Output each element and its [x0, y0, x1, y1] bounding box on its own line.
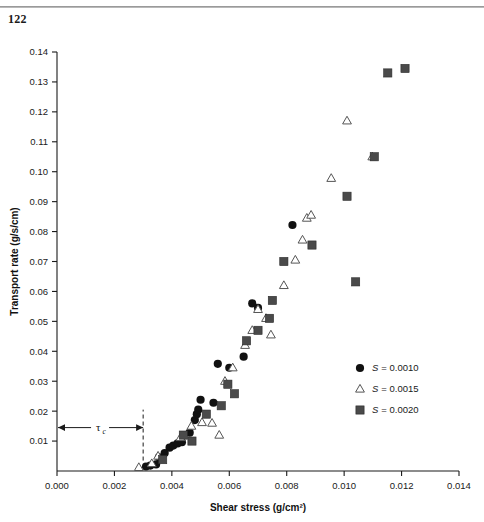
data-point-square — [254, 326, 262, 334]
y-tick-label: 0.13 — [30, 76, 49, 87]
data-point-triangle — [267, 330, 276, 338]
figure-page: 122 0.0000.0020.0040.0060.0080.0100.0120… — [0, 0, 484, 522]
tau-c-label: τ — [96, 421, 101, 433]
y-tick-label: 0.12 — [30, 106, 49, 117]
x-tick-label: 0.002 — [103, 480, 127, 491]
data-point-triangle — [327, 174, 336, 182]
x-tick-label: 0.014 — [447, 480, 471, 491]
data-point-square — [268, 296, 276, 304]
x-tick-label: 0.008 — [275, 480, 299, 491]
data-point-square — [230, 390, 238, 398]
data-point-square — [217, 402, 225, 410]
data-point-triangle — [198, 418, 207, 426]
data-point-circle — [288, 221, 296, 229]
data-point-triangle — [298, 235, 307, 243]
y-tick-label: 0.02 — [30, 406, 49, 417]
data-point-circle — [209, 399, 217, 407]
y-tick-label: 0.09 — [30, 196, 49, 207]
data-point-square — [242, 337, 250, 345]
y-tick-label: 0.14 — [30, 46, 49, 57]
legend-marker-square — [356, 406, 364, 414]
chart-canvas: 0.0000.0020.0040.0060.0080.0100.0120.014… — [0, 0, 484, 522]
data-point-square — [265, 314, 273, 322]
y-tick-label: 0.04 — [30, 346, 49, 357]
data-point-triangle — [291, 255, 300, 263]
data-point-circle — [194, 406, 202, 414]
x-tick-label: 0.006 — [217, 480, 241, 491]
data-point-triangle — [134, 463, 143, 471]
y-tick-label: 0.07 — [30, 256, 49, 267]
data-point-square — [159, 456, 167, 464]
data-point-square — [188, 437, 196, 445]
series-2 — [134, 116, 376, 470]
y-tick-label: 0.05 — [30, 316, 49, 327]
data-point-triangle — [307, 211, 316, 219]
legend: S= 0.0010S= 0.0015S= 0.0020 — [356, 362, 419, 415]
data-point-square — [224, 380, 232, 388]
data-point-square — [202, 410, 210, 418]
x-tick-label: 0.000 — [45, 480, 69, 491]
y-axis-title: Transport rate (g/s/cm) — [9, 207, 20, 315]
data-point-triangle — [215, 430, 224, 438]
data-point-square — [280, 257, 288, 265]
y-tick-label: 0.11 — [30, 136, 48, 147]
y-tick-label: 0.10 — [30, 166, 49, 177]
x-axis-title: Shear stress (g/cm²) — [210, 502, 306, 513]
x-tick-label: 0.004 — [160, 480, 184, 491]
data-point-circle — [196, 396, 204, 404]
data-point-square — [370, 153, 378, 161]
data-point-circle — [214, 360, 222, 368]
legend-marker-triangle — [356, 384, 365, 392]
data-point-triangle — [343, 116, 352, 124]
y-tick-label: 0.06 — [30, 286, 49, 297]
tau-c-arrowhead-right — [136, 424, 143, 431]
scatter-plot: 0.0000.0020.0040.0060.0080.0100.0120.014… — [0, 0, 484, 522]
y-tick-label: 0.03 — [30, 376, 49, 387]
data-point-circle — [240, 353, 248, 361]
y-tick-label: 0.01 — [30, 435, 49, 446]
y-tick-label: 0.08 — [30, 226, 49, 237]
data-point-square — [352, 278, 360, 286]
data-point-triangle — [208, 419, 217, 427]
x-tick-label: 0.012 — [390, 480, 414, 491]
legend-label: S= 0.0015 — [372, 383, 419, 394]
data-point-square — [179, 431, 187, 439]
data-point-triangle — [279, 281, 288, 289]
legend-label: S= 0.0010 — [372, 362, 419, 373]
x-tick-label: 0.010 — [332, 480, 356, 491]
data-point-square — [401, 64, 409, 72]
legend-marker-circle — [356, 364, 364, 372]
tau-c-arrowhead-left — [58, 424, 65, 431]
legend-label: S= 0.0020 — [372, 404, 419, 415]
data-point-square — [308, 241, 316, 249]
data-point-square — [343, 192, 351, 200]
data-point-square — [384, 69, 392, 77]
